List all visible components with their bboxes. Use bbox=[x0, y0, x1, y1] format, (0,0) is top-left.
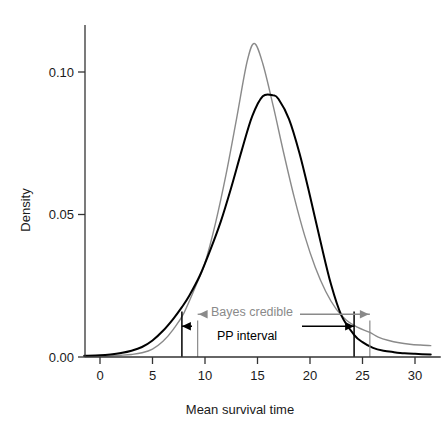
interval-arrow-head-left bbox=[182, 322, 191, 330]
y-axis-title: Density bbox=[18, 188, 33, 232]
x-tick-label: 10 bbox=[198, 368, 212, 383]
y-tick-label: 0.05 bbox=[49, 207, 74, 222]
x-tick-label: 15 bbox=[250, 368, 264, 383]
x-tick-label: 0 bbox=[96, 368, 103, 383]
x-tick-label: 20 bbox=[303, 368, 317, 383]
interval-arrow-head-right bbox=[360, 310, 369, 318]
y-tick-label: 0.10 bbox=[49, 65, 74, 80]
density-plot-svg: 0.000.050.10051015202530 Mean survival t… bbox=[0, 0, 442, 428]
x-tick-label: 5 bbox=[149, 368, 156, 383]
x-tick-label: 25 bbox=[355, 368, 369, 383]
bayes-credible-annotation-label: Bayes credible bbox=[211, 305, 293, 319]
x-tick-label: 30 bbox=[408, 368, 422, 383]
x-axis-title: Mean survival time bbox=[186, 402, 294, 417]
interval-arrow-head-left bbox=[199, 310, 208, 318]
pp-interval-annotation-label: PP interval bbox=[217, 329, 277, 343]
y-tick-label: 0.00 bbox=[49, 350, 74, 365]
chart-figure: 0.000.050.10051015202530 Mean survival t… bbox=[0, 0, 442, 428]
